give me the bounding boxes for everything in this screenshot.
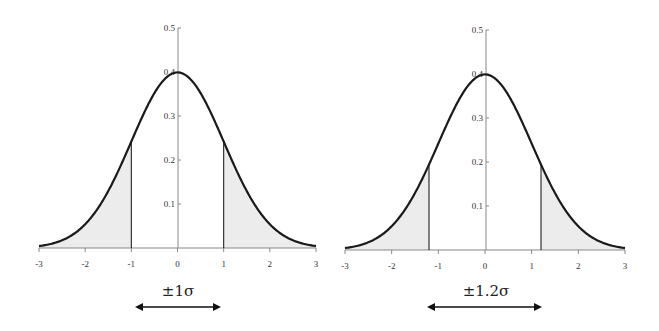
- arrow-head-left-icon: [427, 303, 435, 311]
- x-tick-label: 2: [576, 261, 581, 271]
- x-tick-label: -1: [128, 259, 136, 269]
- y-tick-label: 0.2: [164, 155, 175, 165]
- left-tail-shading: [39, 142, 131, 248]
- y-tick-label: 0.1: [472, 201, 483, 211]
- x-tick-label: 1: [529, 261, 534, 271]
- y-tick-label: 0.3: [472, 113, 484, 123]
- x-tick-label: 2: [268, 259, 273, 269]
- x-tick-label: -2: [81, 259, 89, 269]
- x-tick-label: 0: [175, 259, 180, 269]
- arrow-head-right-icon: [213, 303, 221, 311]
- y-tick-label: 0.5: [164, 23, 176, 33]
- y-tick-label: 0.5: [472, 25, 484, 35]
- y-tick-label: 0.3: [164, 111, 176, 121]
- x-tick-label: 3: [314, 259, 319, 269]
- x-tick-label: 1: [221, 259, 226, 269]
- x-tick-label: 3: [623, 261, 628, 271]
- right-tail-shading: [541, 165, 625, 250]
- arrow-head-left-icon: [135, 303, 143, 311]
- x-tick-label: -3: [35, 259, 43, 269]
- normal-density-curve: [345, 74, 625, 248]
- x-tick-label: 0: [483, 261, 488, 271]
- right-chart: 0.10.20.30.40.5-3-2-10123 ±1.2σ: [329, 0, 659, 331]
- x-tick-label: -3: [341, 261, 349, 271]
- right-sigma-annotation: ±1.2σ: [463, 282, 510, 300]
- right-tail-shading: [224, 142, 316, 248]
- x-tick-label: -2: [388, 261, 396, 271]
- y-tick-label: 0.2: [472, 157, 483, 167]
- left-sigma-annotation: ±1σ: [162, 282, 194, 300]
- arrow-head-right-icon: [534, 303, 542, 311]
- left-tail-shading: [345, 165, 429, 250]
- left-chart: 0.10.20.30.40.5-3-2-10123 ±1σ: [0, 0, 330, 331]
- y-tick-label: 0.1: [164, 199, 175, 209]
- x-tick-label: -1: [435, 261, 443, 271]
